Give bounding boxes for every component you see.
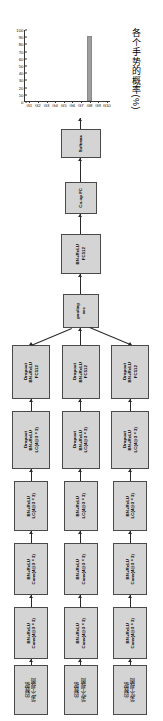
conv-upper-block-view-2: Conv(4@3×3)BN+ReLU: [64, 543, 98, 595]
input-view-block-view-2-line-1: 第2个视图: [81, 679, 87, 702]
chart-x-tick-mark: [29, 101, 30, 103]
lc-dropout-block-view-1-line-3: Dropout: [23, 431, 28, 448]
conn-coopfc-fc512top: [80, 214, 81, 234]
conv-upper-block-view-1-line-2: BN+ReLU: [26, 559, 31, 579]
lc-block-view-3-line-1: LC(4@3×3): [130, 493, 135, 518]
conn-vecpooling-view-3: [90, 327, 131, 345]
fc512-block-view-1-line-1: FC512: [34, 365, 39, 378]
conv-upper-block-view-2-line-2: BN+ReLU: [75, 559, 80, 579]
conv-upper-block-view-2-line-1: Conv(4@3×3): [81, 554, 86, 585]
conn-vecpooling-view-2-arrowhead: [78, 328, 82, 331]
conn-view-2-4-arrowhead: [78, 595, 82, 598]
conn-view-1-4-arrowhead: [29, 595, 33, 598]
vec-pooling-block-line-1: vec: [81, 307, 86, 314]
lc-block-view-2-line-1: LC(4@3×3): [81, 493, 86, 518]
lc-dropout-block-view-3: LC(4@3×3)BN+ReLUDropout: [111, 411, 149, 469]
conn-view-1-5-arrowhead: [29, 659, 33, 662]
fc512-block-view-2-line-3: Dropout: [72, 363, 77, 380]
conn-view-1-2-arrowhead: [29, 469, 33, 472]
fc512-block-view-2-line-2: BN+ReLU: [78, 362, 83, 382]
fc512-block-view-3-line-3: Dropout: [122, 363, 127, 380]
conn-softmax-coopfc: [80, 158, 81, 182]
chart-x-tick-mark: [81, 101, 82, 103]
chart-x-tick-label: G10: [103, 103, 111, 108]
conn-softmax-coopfc-arrowhead: [78, 158, 82, 161]
chart-x-tick-label: G6: [69, 103, 75, 108]
conn-view-3-2-arrowhead: [128, 469, 132, 472]
conv-lower-block-view-3-line-2: BN+ReLU: [125, 623, 130, 643]
probability-bar-chart: 1009080706050403020100G1G2G3G4G5G6G7G8G9…: [0, 0, 163, 120]
fc512-block-view-2-line-1: FC512: [83, 365, 88, 378]
chart-bar: [87, 36, 92, 101]
chart-x-tick-mark: [38, 101, 39, 103]
chart-x-tick-mark: [47, 101, 48, 103]
chart-y-tick-mark: [25, 80, 27, 81]
conn-view-2-3-arrowhead: [78, 531, 82, 534]
fc512-block-view-1-line-2: BN+ReLU: [28, 362, 33, 382]
conn-view-1-1-arrowhead: [29, 399, 33, 402]
conv-upper-block-view-3-line-2: BN+ReLU: [125, 559, 130, 579]
input-view-block-view-1-line-1: 第1个视图: [31, 679, 37, 702]
conv-lower-block-view-1-line-1: Conv(4@3×3): [31, 618, 36, 649]
chart-y-tick-mark: [25, 73, 27, 74]
conv-lower-block-view-3: Conv(4@3×3)BN+ReLU: [113, 607, 147, 659]
chart-x-tick-label: G3: [44, 103, 50, 108]
conn-view-2-2-arrowhead: [78, 469, 82, 472]
chart-x-tick-mark: [72, 101, 73, 103]
conn-vecpooling-view-1: [31, 328, 72, 346]
lc-dropout-block-view-1-line-1: LC(4@3×3): [34, 427, 39, 452]
lc-dropout-block-view-2-line-2: BN+ReLU: [78, 430, 83, 450]
input-view-block-view-3: 第3个视图的数据: [113, 665, 147, 715]
lc-dropout-block-view-2: LC(4@3×3)BN+ReLUDropout: [62, 411, 100, 469]
co-op-fc-block-line-1: Co-op FC: [78, 188, 83, 208]
conn-vecpooling-view-3-arrowhead: [128, 342, 132, 345]
conv-lower-block-view-2: Conv(4@3×3)BN+ReLU: [64, 607, 98, 659]
conn-softmax-to-chart-arrowhead: [78, 118, 82, 121]
chart-x-tick-mark: [90, 101, 91, 103]
chart-y-tick-mark: [25, 66, 27, 67]
input-view-block-view-3-line-1: 第3个视图: [130, 679, 136, 702]
softmax-block: Softmax: [61, 129, 101, 158]
lc-dropout-block-view-3-line-3: Dropout: [122, 431, 127, 448]
fc512-block-view-3: FC512BN+ReLUDropout: [111, 345, 149, 399]
conv-upper-block-view-1: Conv(4@3×3)BN+ReLU: [14, 543, 48, 595]
chart-y-tick-mark: [25, 87, 27, 88]
conn-view-3-1-arrowhead: [128, 399, 132, 402]
input-view-block-view-1: 第1个视图的数据: [14, 665, 48, 715]
conn-view-1-3-arrowhead: [29, 531, 33, 534]
lc-dropout-block-view-1-line-2: BN+ReLU: [28, 430, 33, 450]
chart-y-tick-mark: [25, 44, 27, 45]
conv-upper-block-view-1-line-1: Conv(4@3×3): [31, 554, 36, 585]
conv-lower-block-view-2-line-2: BN+ReLU: [75, 623, 80, 643]
chart-x-tick-label: G2: [35, 103, 41, 108]
chart-x-tick-label: G9: [95, 103, 101, 108]
input-view-block-view-1-line-2: 的数据: [25, 683, 31, 698]
conv-upper-block-view-3: Conv(4@3×3)BN+ReLU: [113, 543, 147, 595]
lc-block-view-3-line-2: BN+ReLU: [125, 496, 130, 516]
chart-x-tick-mark: [55, 101, 56, 103]
conv-upper-block-view-3-line-1: Conv(4@3×3): [130, 554, 135, 585]
chart-x-tick-mark: [98, 101, 99, 103]
fc512-top-block-line-1: FC512: [81, 247, 86, 260]
fc512-block-view-2: FC512BN+ReLUDropout: [62, 345, 100, 399]
chart-x-tick-mark: [107, 101, 108, 103]
fc512-top-block-line-2: BN+ReLU: [75, 244, 80, 264]
lc-dropout-block-view-3-line-2: BN+ReLU: [127, 430, 132, 450]
lc-block-view-1: LC(4@3×3)BN+ReLU: [14, 481, 48, 531]
lc-dropout-block-view-3-line-1: LC(4@3×3): [133, 427, 138, 452]
conv-lower-block-view-1-line-2: BN+ReLU: [26, 623, 31, 643]
fc512-block-view-1-line-3: Dropout: [23, 363, 28, 380]
input-view-block-view-3-line-2: 的数据: [124, 683, 130, 698]
conv-lower-block-view-3-line-1: Conv(4@3×3): [130, 618, 135, 649]
lc-dropout-block-view-1: LC(4@3×3)BN+ReLUDropout: [12, 411, 50, 469]
vec-pooling-block: vecpooling: [63, 294, 99, 328]
conn-fc512top-vecpooling: [80, 274, 81, 294]
chart-y-tick-mark: [25, 51, 27, 52]
chart-y-tick-mark: [25, 37, 27, 38]
softmax-block-line-1: Softmax: [78, 135, 83, 152]
fc512-top-block: FC512BN+ReLU: [61, 234, 101, 274]
chart-x-tick-label: G1: [26, 103, 32, 108]
chart-y-axis-label: 各个手势的概率(%): [130, 28, 143, 110]
fc512-block-view-1: FC512BN+ReLUDropout: [12, 345, 50, 399]
fc512-block-view-3-line-2: BN+ReLU: [127, 362, 132, 382]
